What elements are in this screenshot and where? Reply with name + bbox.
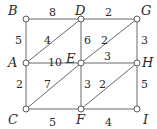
edge-weight-label: 10: [48, 56, 62, 69]
edge-weight-label: 3: [141, 34, 148, 47]
weighted-graph-diagram: 82546231032732554 BDGAEHCFI: [0, 0, 157, 129]
edge-weight-label: 2: [101, 34, 108, 47]
edge-weight-label: 5: [49, 116, 56, 129]
edge-weight-label: 7: [44, 78, 51, 91]
edge-weight-label: 3: [104, 50, 111, 63]
node-e-vertex: [78, 60, 84, 66]
node-label-d: D: [74, 3, 86, 18]
edge-weight-label: 6: [84, 34, 91, 47]
edge-weight-label: 4: [44, 34, 51, 47]
edge-weight-label: 3: [84, 78, 91, 91]
node-g-vertex: [134, 16, 140, 22]
node-a-vertex: [23, 60, 29, 66]
node-label-g: G: [141, 3, 151, 18]
node-i-vertex: [134, 106, 140, 112]
edge-weight-label: 5: [15, 34, 22, 47]
edge-weight-label: 4: [105, 116, 112, 129]
edge-weight-label: 8: [49, 6, 56, 19]
edge-weight-label: 2: [16, 78, 23, 91]
node-b-vertex: [23, 16, 29, 22]
node-label-e: E: [65, 51, 76, 66]
node-label-a: A: [7, 55, 17, 70]
node-c-vertex: [23, 106, 29, 112]
edge-weight-label: 2: [99, 78, 106, 91]
node-h-vertex: [134, 60, 140, 66]
node-label-c: C: [8, 112, 18, 127]
node-label-h: H: [141, 55, 154, 70]
edge-weight-label: 2: [105, 6, 112, 19]
edge-c-e: [26, 63, 81, 109]
node-label-i: I: [142, 112, 149, 127]
node-label-f: F: [75, 112, 86, 127]
node-label-b: B: [7, 3, 18, 18]
edge-weight-label: 5: [141, 78, 148, 91]
